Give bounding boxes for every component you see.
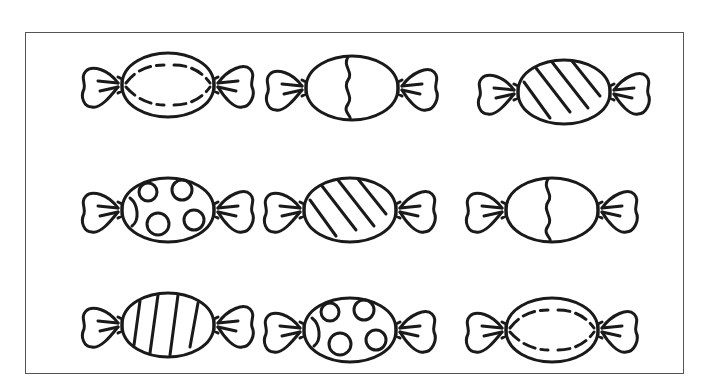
candy-dashed-lens: [78, 45, 258, 125]
candy-icon: [462, 170, 642, 250]
candy-icon: [474, 52, 654, 132]
candy-icon: [78, 170, 258, 250]
candy-icon: [260, 290, 440, 370]
candy-diagonal-stripes: [474, 52, 654, 132]
candy-vertical-stripes: [78, 285, 258, 365]
candy-wavy-split: [262, 48, 442, 128]
candy-polka-dots: [78, 170, 258, 250]
candy-icon: [262, 48, 442, 128]
candy-diagonal-stripes: [260, 170, 440, 250]
candy-icon: [78, 285, 258, 365]
candy-icon: [78, 45, 258, 125]
candy-icon: [260, 170, 440, 250]
candy-dashed-lens: [462, 290, 642, 370]
candy-icon: [462, 290, 642, 370]
candy-polka-dots: [260, 290, 440, 370]
candy-wavy-split: [462, 170, 642, 250]
